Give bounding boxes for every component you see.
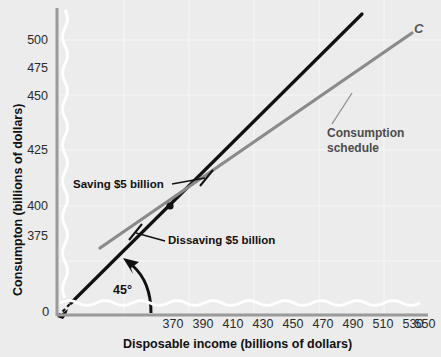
saving-annotation-label: Saving $5 billion <box>73 178 164 190</box>
y-tick-450: 450 <box>14 89 48 103</box>
y-tick-475: 475 <box>14 61 48 75</box>
break-even-point-marker <box>166 202 173 209</box>
curve-c-label: C <box>414 21 423 36</box>
x-tick-490: 490 <box>338 317 368 331</box>
x-tick-390: 390 <box>188 317 218 331</box>
x-tick-470: 470 <box>308 317 338 331</box>
x-tick-510: 510 <box>368 317 398 331</box>
x-tick-370: 370 <box>158 317 188 331</box>
y-tick-500: 500 <box>14 33 48 47</box>
chart-canvas <box>0 0 441 357</box>
x-tick-410: 410 <box>218 317 248 331</box>
x-tick-450: 450 <box>278 317 308 331</box>
consumption-schedule-label: Consumption schedule <box>327 126 404 155</box>
y-axis-title: Consumpton (billions of dollars) <box>11 104 25 296</box>
y-tick-zero: 0 <box>42 304 49 319</box>
dissaving-annotation-label: Dissaving $5 billion <box>168 234 275 246</box>
chart-figure: 500 475 450 425 400 375 0 370 390 410 43… <box>0 0 441 357</box>
x-axis-title: Disposable income (billions of dollars) <box>123 337 352 351</box>
x-tick-550: 550 <box>410 317 440 331</box>
angle-label: 45° <box>113 283 132 297</box>
x-tick-430: 430 <box>248 317 278 331</box>
